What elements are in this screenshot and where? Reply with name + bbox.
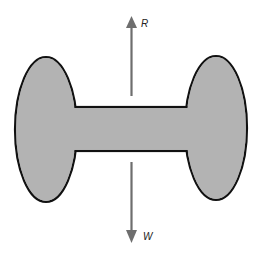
connecting-bar-fill	[60, 108, 203, 150]
free-body-diagram: R W	[0, 0, 265, 254]
force-label-w: W	[143, 231, 154, 242]
force-label-r: R	[141, 18, 148, 29]
